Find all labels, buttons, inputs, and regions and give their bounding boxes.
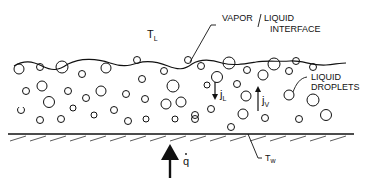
droplets-label-line1: LIQUID — [311, 72, 342, 82]
interface-leader-line — [190, 25, 216, 62]
liquid-temp-label: TL — [147, 28, 158, 42]
wall-hatching — [10, 136, 346, 141]
interface-label-vapor: VAPOR — [222, 13, 253, 23]
liquid-flux-label: jL — [219, 88, 226, 102]
vapor-flux-label: jV — [261, 94, 269, 108]
liquid-flux-arrow — [212, 82, 218, 100]
droplets-leader-line — [293, 77, 307, 92]
heat-flux-label: q — [183, 155, 189, 167]
droplets-label-line2: DROPLETS — [311, 82, 360, 92]
interface-slash — [258, 14, 261, 27]
wall-temp-label: Tw — [265, 153, 277, 164]
heat-flux-arrow — [161, 144, 179, 178]
vapor-flux-arrow — [255, 86, 261, 111]
liquid-film-diagram: TL VAPOR LIQUID INTERFACE LIQUID DROPLET… — [0, 0, 370, 178]
interface-label-interface: INTERFACE — [270, 24, 321, 34]
heat-flux-dot — [185, 153, 187, 155]
interface-label-liquid: LIQUID — [264, 13, 295, 23]
